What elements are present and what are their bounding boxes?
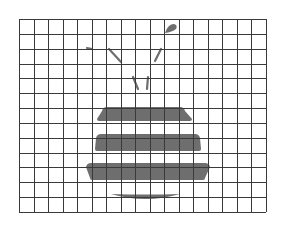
stripe-3	[86, 163, 210, 180]
droplet-icon	[165, 24, 177, 33]
antenna-segment-1	[109, 49, 121, 62]
antenna-tick	[87, 48, 92, 49]
bee-shape	[86, 24, 210, 199]
grid-illustration	[0, 0, 284, 228]
antenna-segment-3	[155, 49, 161, 61]
stripe-1	[97, 107, 192, 121]
stripe-2	[95, 134, 201, 151]
